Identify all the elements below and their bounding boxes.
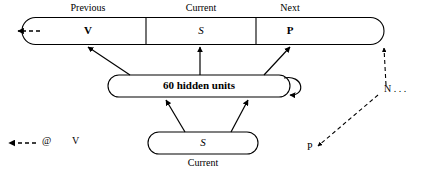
annotation-p-label: P (307, 142, 313, 152)
hidden-to-output-connections (88, 47, 290, 75)
hidden-to-next-arrow (264, 47, 290, 75)
input-box-caption: Current (188, 158, 219, 168)
input-to-hidden-connections (166, 100, 248, 132)
annotation-dashed-path (318, 48, 386, 146)
input-box-value: S (200, 137, 206, 148)
legend-dashed-arrow-icon (6, 136, 40, 150)
input-to-hidden-arrow-right (231, 100, 248, 132)
output-cell-label-previous: Previous (71, 3, 106, 13)
output-cell-value-previous: V (84, 25, 92, 36)
hidden-units-label: 60 hidden units (163, 80, 235, 91)
legend-at-symbol: @ (42, 136, 51, 146)
output-cell-value-current: S (198, 25, 204, 36)
n-to-p-dashed-arrow (318, 95, 378, 146)
output-cell-label-current: Current (186, 3, 217, 13)
n-to-output-dashed-arrow (384, 48, 386, 85)
legend-item-label: V (72, 136, 79, 146)
diagram-canvas: Previous Current Next V S P 60 hidden un… (0, 0, 426, 175)
output-cell-label-next: Next (280, 3, 299, 13)
annotation-n-label: N . . . (384, 84, 406, 94)
input-to-hidden-arrow-left (166, 100, 185, 132)
hidden-to-previous-arrow (88, 47, 130, 75)
output-cell-value-next: P (287, 25, 294, 36)
